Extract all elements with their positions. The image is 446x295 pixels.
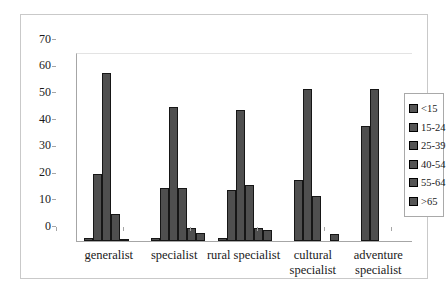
bar->65-specialist xyxy=(196,233,205,241)
bar->65-rural-specialist xyxy=(263,230,272,241)
bar-cluster xyxy=(84,54,138,241)
bar-cluster xyxy=(285,54,339,241)
y-tick-mark xyxy=(52,199,56,200)
y-tick-mark xyxy=(52,66,56,67)
bar-15-24-adventure-specialist xyxy=(361,126,370,241)
bar-slot xyxy=(236,110,245,241)
bar-slot xyxy=(178,188,187,241)
legend-item-55-64: 55-64 xyxy=(409,177,443,188)
bar-cluster xyxy=(151,54,205,241)
legend-label: 25-39 xyxy=(421,140,446,151)
bar-15-24-rural-specialist xyxy=(227,190,236,241)
bar-slot xyxy=(227,190,236,241)
bar-slot xyxy=(169,107,178,241)
y-tick-label-0: 0 xyxy=(21,220,51,233)
bar-slot xyxy=(187,228,196,241)
bar-group-generalist xyxy=(77,54,144,241)
chart-frame: generalistspecialistrural specialistcult… xyxy=(20,14,428,279)
bar-slot xyxy=(120,239,129,241)
bar-slot xyxy=(294,180,303,241)
y-tick-mark xyxy=(52,92,56,93)
bar-slot xyxy=(218,238,227,241)
bar-25-39-rural-specialist xyxy=(236,110,245,241)
x-tick-mark xyxy=(324,227,325,231)
bar-40-54-rural-specialist xyxy=(245,185,254,241)
bar-group-specialist xyxy=(144,54,211,241)
bar-40-54-generalist xyxy=(111,214,120,241)
bar-slot xyxy=(102,73,111,241)
x-tick-mark xyxy=(391,227,392,231)
bar-15-24-generalist xyxy=(93,174,102,241)
bar-slot xyxy=(330,234,339,241)
legend-item-40-54: 40-54 xyxy=(409,159,443,170)
bar-15-24-specialist xyxy=(160,188,169,241)
y-tick-label-20: 20 xyxy=(21,166,51,179)
page: { "chart_data": { "type": "bar", "title"… xyxy=(0,0,446,295)
x-tick-mark xyxy=(123,227,124,231)
bar-group-adventure-specialist xyxy=(345,54,412,241)
bar-<15-rural-specialist xyxy=(218,238,227,241)
legend-label: <15 xyxy=(421,103,437,114)
bar-slot xyxy=(84,238,93,241)
category-label-generalist: generalist xyxy=(76,248,141,278)
bar-slot xyxy=(245,185,254,241)
legend: <1515-2425-3940-5455-64>65 xyxy=(404,93,444,217)
legend-item-15-24: 15-24 xyxy=(409,122,443,133)
x-axis-labels: generalistspecialistrural specialistcult… xyxy=(76,248,411,278)
y-tick-label-30: 30 xyxy=(21,139,51,152)
x-tick-mark xyxy=(257,227,258,231)
bar-<15-specialist xyxy=(151,238,160,241)
y-tick-label-60: 60 xyxy=(21,59,51,72)
y-tick-mark xyxy=(52,119,56,120)
bar-group-rural-specialist xyxy=(211,54,278,241)
bar-25-39-specialist xyxy=(169,107,178,241)
x-tick-mark xyxy=(190,227,191,231)
bar-group-cultural-specialist xyxy=(278,54,345,241)
bar-40-54-cultural-specialist xyxy=(312,196,321,241)
bar-cluster xyxy=(352,54,406,241)
bar->65-cultural-specialist xyxy=(330,234,339,241)
bar-<15-generalist xyxy=(84,238,93,241)
bar-slot xyxy=(370,89,379,241)
bar-slot xyxy=(160,188,169,241)
y-tick-label-40: 40 xyxy=(21,113,51,126)
bar-25-39-adventure-specialist xyxy=(370,89,379,241)
category-label-rural-specialist: rural specialist xyxy=(207,248,280,278)
bar-55-64-specialist xyxy=(187,228,196,241)
legend-swatch-icon xyxy=(409,178,418,187)
legend-swatch-icon xyxy=(409,123,418,132)
legend-label: >65 xyxy=(421,196,437,207)
bar-55-64-rural-specialist xyxy=(254,228,263,241)
category-label-cultural-specialist: culturalspecialist xyxy=(280,248,345,278)
legend-item-<15: <15 xyxy=(409,103,443,114)
y-tick-label-70: 70 xyxy=(21,33,51,46)
bar-slot xyxy=(312,196,321,241)
legend-item->65: >65 xyxy=(409,196,443,207)
y-tick-label-50: 50 xyxy=(21,86,51,99)
bar-slot xyxy=(263,230,272,241)
bar-slot xyxy=(361,126,370,241)
plot-area xyxy=(76,53,412,242)
y-tick-mark xyxy=(52,146,56,147)
bar-slot xyxy=(196,233,205,241)
bar-slot xyxy=(111,214,120,241)
y-tick-mark xyxy=(52,173,56,174)
bar-cluster xyxy=(218,54,272,241)
bar-25-39-cultural-specialist xyxy=(303,89,312,241)
y-tick-label-10: 10 xyxy=(21,193,51,206)
bar-slot xyxy=(93,174,102,241)
category-label-specialist: specialist xyxy=(141,248,206,278)
bar-40-54-specialist xyxy=(178,188,187,241)
bar-25-39-generalist xyxy=(102,73,111,241)
legend-item-25-39: 25-39 xyxy=(409,140,443,151)
legend-label: 15-24 xyxy=(421,122,446,133)
legend-label: 40-54 xyxy=(421,159,446,170)
legend-swatch-icon xyxy=(409,197,418,206)
legend-swatch-icon xyxy=(409,141,418,150)
y-tick-mark xyxy=(52,39,56,40)
legend-swatch-icon xyxy=(409,160,418,169)
legend-label: 55-64 xyxy=(421,177,446,188)
bar-15-24-cultural-specialist xyxy=(294,180,303,241)
legend-swatch-icon xyxy=(409,104,418,113)
bar-slot xyxy=(303,89,312,241)
